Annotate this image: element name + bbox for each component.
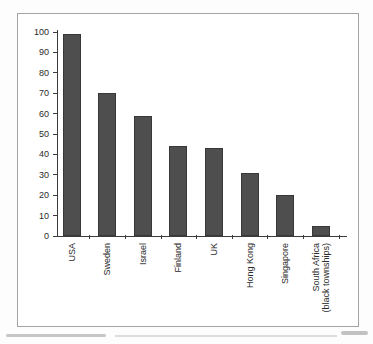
page: 0102030405060708090100USASwedenIsraelFin… (0, 0, 373, 344)
y-axis-tick-label: 100 (23, 27, 49, 37)
x-category-label: USA (66, 243, 77, 262)
y-axis-tick (53, 32, 57, 33)
bar (169, 146, 187, 236)
y-axis-tick-label: 90 (23, 47, 49, 57)
x-category-label: Israel (137, 243, 148, 265)
bar (312, 226, 330, 236)
figure-frame: 0102030405060708090100USASwedenIsraelFin… (17, 13, 359, 327)
y-axis-line (57, 30, 58, 237)
y-axis-tick-label: 0 (23, 231, 49, 241)
x-category-label: Sweden (102, 243, 113, 276)
bar (98, 93, 116, 236)
y-axis-tick-label: 60 (23, 109, 49, 119)
x-axis-tick (303, 235, 304, 239)
y-axis-tick (53, 195, 57, 196)
y-axis-tick (53, 113, 57, 114)
y-axis-tick-label: 10 (23, 211, 49, 221)
bar (205, 148, 223, 236)
x-axis-tick (339, 235, 340, 239)
x-axis-tick (125, 235, 126, 239)
bar (134, 116, 152, 236)
x-category-label: South Africa (black townships) (310, 243, 331, 313)
x-axis-tick (232, 235, 233, 239)
y-axis-tick (53, 52, 57, 53)
y-axis-tick (53, 72, 57, 73)
y-axis-tick-label: 30 (23, 170, 49, 180)
y-axis-tick (53, 93, 57, 94)
x-category-label: Finland (173, 243, 184, 273)
bar (241, 173, 259, 236)
y-axis-tick (53, 236, 57, 237)
scan-artifact (6, 334, 106, 337)
y-axis-tick-label: 20 (23, 190, 49, 200)
y-axis-tick-label: 50 (23, 129, 49, 139)
scan-artifact (115, 335, 337, 337)
x-axis-tick (267, 235, 268, 239)
chart-area: 0102030405060708090100USASwedenIsraelFin… (18, 14, 358, 326)
x-axis-tick (89, 235, 90, 239)
scan-artifact (341, 331, 368, 335)
x-axis-tick (196, 235, 197, 239)
y-axis-tick (53, 174, 57, 175)
y-axis-tick-label: 70 (23, 88, 49, 98)
y-axis-tick (53, 154, 57, 155)
y-axis-tick (53, 215, 57, 216)
y-axis-tick-label: 40 (23, 149, 49, 159)
y-axis-tick-label: 80 (23, 68, 49, 78)
x-category-label: Singapore (280, 243, 291, 284)
x-category-label: Hong Kong (244, 243, 255, 288)
x-category-label: UK (209, 243, 220, 256)
bar (276, 195, 294, 236)
x-axis-tick (161, 235, 162, 239)
y-axis-tick (53, 134, 57, 135)
bar (63, 34, 81, 236)
